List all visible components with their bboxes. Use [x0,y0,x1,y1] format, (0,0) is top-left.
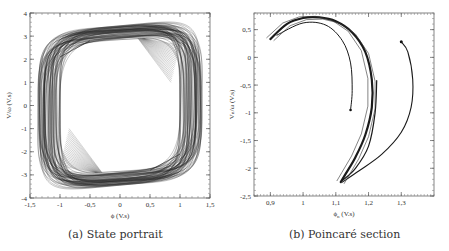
y-tick-label: -0,5 [240,82,252,90]
y-tick-label: 2 [24,56,28,64]
x-tick-label: 0,9 [266,199,275,207]
x-axis-label: ϕ (V.s) [111,212,130,220]
y-tick-label: -1 [245,109,251,117]
y-tick-label: 0 [248,54,252,62]
y-tick-label: 4 [24,10,28,18]
y-tick-label: -2,5 [240,193,252,201]
state-portrait-plot: -1,5-1-0,500,511,543210-1-2-3-4ϕ (V.s)V/… [5,10,215,221]
curve-outer-arc [270,17,372,182]
y-tick-label: -1,5 [240,137,252,145]
trajectory-band [38,22,202,189]
x-tick-label: 1,3 [397,199,406,207]
end-point [349,109,352,112]
caption-poincare-section: (b) Poincaré section [289,228,400,241]
end-point [400,40,403,43]
y-tick-label: -2 [21,148,27,156]
x-tick-label: 1,1 [331,199,340,207]
x-tick-label: 1,5 [206,201,215,209]
x-axis-label: ϕn (V.s) [333,210,355,219]
y-tick-label: -1 [21,125,27,133]
curve-inner-arc [277,22,352,110]
y-tick-label: 3 [24,33,28,41]
x-tick-label: 1 [301,199,305,207]
x-tick-label: 1,2 [364,199,373,207]
y-tick-label: 0,5 [242,26,251,34]
x-tick-label: 1 [178,201,182,209]
x-tick-label: -0,5 [84,201,96,209]
poincare-section-plot: 0,911,11,21,30,50-0,5-1-1,5-2-2,5ϕn (V.s… [228,13,434,219]
poincare-points [266,16,413,183]
y-tick-label: 1 [24,79,28,87]
y-tick-label: 0 [24,102,28,110]
x-tick-label: -1 [57,201,63,209]
y-tick-label: -3 [21,171,27,179]
y-tick-label: -2 [245,165,251,173]
x-tick-label: 0 [118,201,122,209]
caption-state-portrait: (a) State portrait [68,228,163,241]
y-axis-label: V/ω (V.s) [5,92,13,119]
y-tick-label: -4 [21,195,27,203]
x-tick-label: 0,5 [146,201,155,209]
figure-canvas: -1,5-1-0,500,511,543210-1-2-3-4ϕ (V.s)V/… [0,0,449,251]
y-axis-label: Vₙ/ω (V.s) [228,89,236,119]
